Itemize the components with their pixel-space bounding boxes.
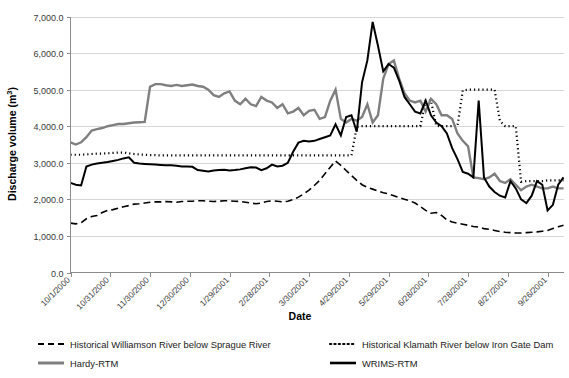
- x-tick-label-group: 1/29/2001: [197, 275, 231, 309]
- series-line-williamson: [71, 161, 564, 233]
- x-tick-label-group: 10/31/2000: [74, 275, 111, 312]
- legend-label: Hardy-RTM: [70, 358, 118, 369]
- series-line-klamath: [71, 90, 564, 182]
- x-tick-label-group: 7/28/2001: [435, 275, 469, 309]
- chart-canvas: 0.01,000.02,000.03,000.04,000.05,000.06,…: [0, 0, 569, 378]
- x-tick-label: 12/30/2000: [154, 275, 191, 312]
- legend-item[interactable]: Historical Williamson River below Spragu…: [38, 339, 271, 350]
- y-tick-label: 4,000.0: [33, 122, 63, 132]
- x-axis-title: Date: [289, 310, 312, 322]
- y-axis-title: Discharge volume (m3): [5, 87, 19, 201]
- x-tick-label-group: 3/30/2001: [276, 275, 310, 309]
- x-tick-label-group: 6/28/2001: [395, 275, 429, 309]
- x-tick-label-group: 11/30/2000: [115, 275, 152, 312]
- x-tick-label: 6/28/2001: [395, 275, 429, 309]
- x-tick-label: 3/30/2001: [276, 275, 310, 309]
- x-tick-label-group: 4/29/2001: [316, 275, 350, 309]
- x-tick-label: 8/27/2001: [475, 275, 509, 309]
- y-tick-label: 6,000.0: [33, 49, 63, 59]
- legend-label: Historical Klamath River below Iron Gate…: [362, 339, 553, 350]
- x-tick-label-group: 2/28/2001: [236, 275, 270, 309]
- x-tick-label-group: 8/27/2001: [475, 275, 509, 309]
- legend-item[interactable]: Historical Klamath River below Iron Gate…: [330, 339, 553, 350]
- series-line-hardy: [71, 60, 564, 190]
- x-tick-label: 11/30/2000: [115, 275, 152, 312]
- x-tick-label: 9/26/2001: [515, 275, 549, 309]
- x-tick-label: 2/28/2001: [236, 275, 270, 309]
- y-axis-title-tail: ): [6, 87, 18, 91]
- legend-item[interactable]: WRIMS-RTM: [330, 358, 418, 369]
- x-tick-label: 5/29/2001: [356, 275, 390, 309]
- x-tick-label: 7/28/2001: [435, 275, 469, 309]
- x-tick-label: 4/29/2001: [316, 275, 350, 309]
- x-tick-label-group: 5/29/2001: [356, 275, 390, 309]
- legend-label: Historical Williamson River below Spragu…: [70, 339, 271, 350]
- legend-label: WRIMS-RTM: [362, 358, 418, 369]
- x-tick-label: 1/29/2001: [197, 275, 231, 309]
- discharge-volume-chart: 0.01,000.02,000.03,000.04,000.05,000.06,…: [0, 0, 569, 378]
- x-tick-label-group: 12/30/2000: [154, 275, 191, 312]
- x-tick-label-group: 10/1/2000: [38, 275, 72, 309]
- y-axis-ticks: 0.01,000.02,000.03,000.04,000.05,000.06,…: [33, 13, 70, 279]
- x-tick-label: 10/31/2000: [74, 275, 111, 312]
- y-tick-label: 5,000.0: [33, 86, 63, 96]
- y-tick-label: 2,000.0: [33, 195, 63, 205]
- chart-legend: Historical Williamson River below Spragu…: [38, 339, 553, 369]
- y-tick-label: 7,000.0: [33, 13, 63, 23]
- y-axis-title-text: Discharge volume (m: [6, 95, 18, 201]
- x-tick-label-group: 9/26/2001: [515, 275, 549, 309]
- y-tick-label: 3,000.0: [33, 159, 63, 169]
- legend-item[interactable]: Hardy-RTM: [38, 358, 118, 369]
- svg-text:Discharge volume (m3): Discharge volume (m3): [5, 87, 19, 201]
- y-tick-label: 1,000.0: [33, 232, 63, 242]
- x-tick-label: 10/1/2000: [38, 275, 72, 309]
- x-axis-ticks: 10/1/200010/31/200011/30/200012/30/20001…: [38, 273, 549, 312]
